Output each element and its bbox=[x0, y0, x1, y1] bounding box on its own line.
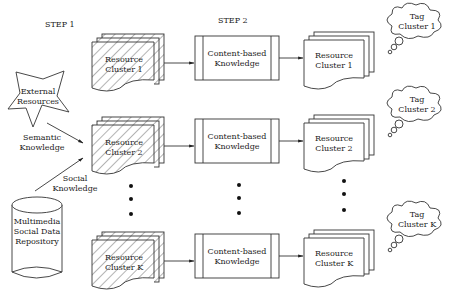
ellipsis-process-column bbox=[237, 183, 241, 215]
output-cluster-line-2: Cluster 2 bbox=[315, 144, 352, 153]
thought-bubble bbox=[391, 44, 397, 50]
input-cluster-line-1: Resource bbox=[105, 253, 143, 262]
thought-bubble bbox=[391, 242, 397, 248]
thought-bubble bbox=[391, 127, 397, 133]
tag-cluster-line-1: Tag bbox=[410, 210, 425, 219]
ellipsis-dot bbox=[237, 196, 241, 200]
tag-cluster-line-2: Cluster 1 bbox=[398, 22, 435, 31]
external-resources-line-1: External bbox=[21, 87, 56, 96]
repository-line-2: Social Data bbox=[14, 227, 61, 236]
semantic-label-line-1: Semantic bbox=[23, 133, 61, 142]
diagram-canvas: STEP 1 STEP 2 External Resources Multime… bbox=[0, 0, 450, 294]
cluster-row: ResourceCluster 1Content-basedKnowledgeR… bbox=[92, 3, 441, 91]
content-based-knowledge-box: Content-basedKnowledge bbox=[195, 119, 279, 163]
content-based-knowledge-box: Content-basedKnowledge bbox=[195, 234, 279, 278]
thought-bubble bbox=[395, 235, 403, 243]
thought-bubble bbox=[388, 50, 392, 54]
semantic-label-line-2: Knowledge bbox=[19, 143, 64, 152]
output-cluster-line-2: Cluster K bbox=[315, 259, 354, 268]
ellipsis-dot bbox=[342, 179, 346, 183]
step-1-label: STEP 1 bbox=[45, 20, 75, 29]
process-box-outer bbox=[195, 234, 279, 278]
cluster-row: ResourceCluster 2Content-basedKnowledgeR… bbox=[92, 86, 441, 174]
social-label-line-2: Knowledge bbox=[52, 184, 97, 193]
ellipsis-output-column bbox=[342, 179, 346, 212]
process-line-1: Content-based bbox=[208, 247, 267, 256]
content-based-knowledge-box: Content-basedKnowledge bbox=[195, 36, 279, 80]
process-box-outer bbox=[195, 119, 279, 163]
ellipsis-input-column bbox=[129, 184, 133, 216]
repository-node: Multimedia Social Data Repository bbox=[12, 197, 62, 278]
thought-bubble bbox=[388, 133, 392, 137]
cluster-row: ResourceCluster KContent-basedKnowledgeR… bbox=[92, 201, 441, 289]
process-line-1: Content-based bbox=[208, 49, 267, 58]
ellipsis-dot bbox=[237, 211, 241, 215]
input-resource-cluster: ResourceCluster K bbox=[92, 232, 164, 289]
output-resource-cluster: ResourceCluster 1 bbox=[304, 32, 374, 89]
cylinder-top bbox=[12, 197, 62, 213]
process-line-2: Knowledge bbox=[214, 142, 259, 151]
output-cluster-line-1: Resource bbox=[315, 51, 353, 60]
step-2-label: STEP 2 bbox=[218, 16, 248, 25]
input-resource-cluster: ResourceCluster 2 bbox=[92, 117, 164, 174]
ellipsis-dot bbox=[129, 184, 133, 188]
ellipsis-dot bbox=[129, 212, 133, 216]
tag-cluster-cloud: TagCluster 1 bbox=[387, 3, 441, 54]
external-resources-node: External Resources bbox=[8, 71, 69, 127]
thought-bubble bbox=[388, 248, 392, 252]
process-line-2: Knowledge bbox=[214, 257, 259, 266]
input-cluster-line-1: Resource bbox=[105, 138, 143, 147]
external-resources-line-2: Resources bbox=[17, 97, 59, 106]
ellipsis-dot bbox=[129, 197, 133, 201]
output-cluster-line-1: Resource bbox=[315, 249, 353, 258]
thought-bubble bbox=[395, 120, 403, 128]
tag-cluster-line-2: Cluster K bbox=[398, 220, 437, 229]
output-cluster-line-2: Cluster 1 bbox=[315, 61, 352, 70]
input-resource-cluster: ResourceCluster 1 bbox=[92, 34, 164, 91]
tag-cluster-line-2: Cluster 2 bbox=[398, 105, 435, 114]
ellipsis-dot bbox=[342, 208, 346, 212]
social-label-line-1: Social bbox=[63, 174, 88, 183]
tag-cluster-cloud: TagCluster 2 bbox=[387, 86, 441, 137]
input-cluster-line-2: Cluster 2 bbox=[105, 148, 142, 157]
input-cluster-line-2: Cluster 1 bbox=[105, 65, 142, 74]
repository-line-3: Repository bbox=[15, 237, 59, 246]
output-resource-cluster: ResourceCluster 2 bbox=[304, 115, 374, 172]
ellipsis-dot bbox=[342, 192, 346, 196]
output-cluster-line-1: Resource bbox=[315, 134, 353, 143]
process-line-1: Content-based bbox=[208, 132, 267, 141]
tag-cluster-line-1: Tag bbox=[410, 95, 425, 104]
input-cluster-line-1: Resource bbox=[105, 55, 143, 64]
ellipsis-dot bbox=[237, 183, 241, 187]
process-line-2: Knowledge bbox=[214, 59, 259, 68]
thought-bubble bbox=[395, 37, 403, 45]
process-box-outer bbox=[195, 36, 279, 80]
repository-line-1: Multimedia bbox=[14, 217, 61, 226]
output-resource-cluster: ResourceCluster K bbox=[304, 230, 374, 287]
input-cluster-line-2: Cluster K bbox=[105, 263, 144, 272]
cluster-rows: ResourceCluster 1Content-basedKnowledgeR… bbox=[92, 3, 441, 289]
tag-cluster-cloud: TagCluster K bbox=[387, 201, 441, 252]
tag-cluster-line-1: Tag bbox=[410, 12, 425, 21]
